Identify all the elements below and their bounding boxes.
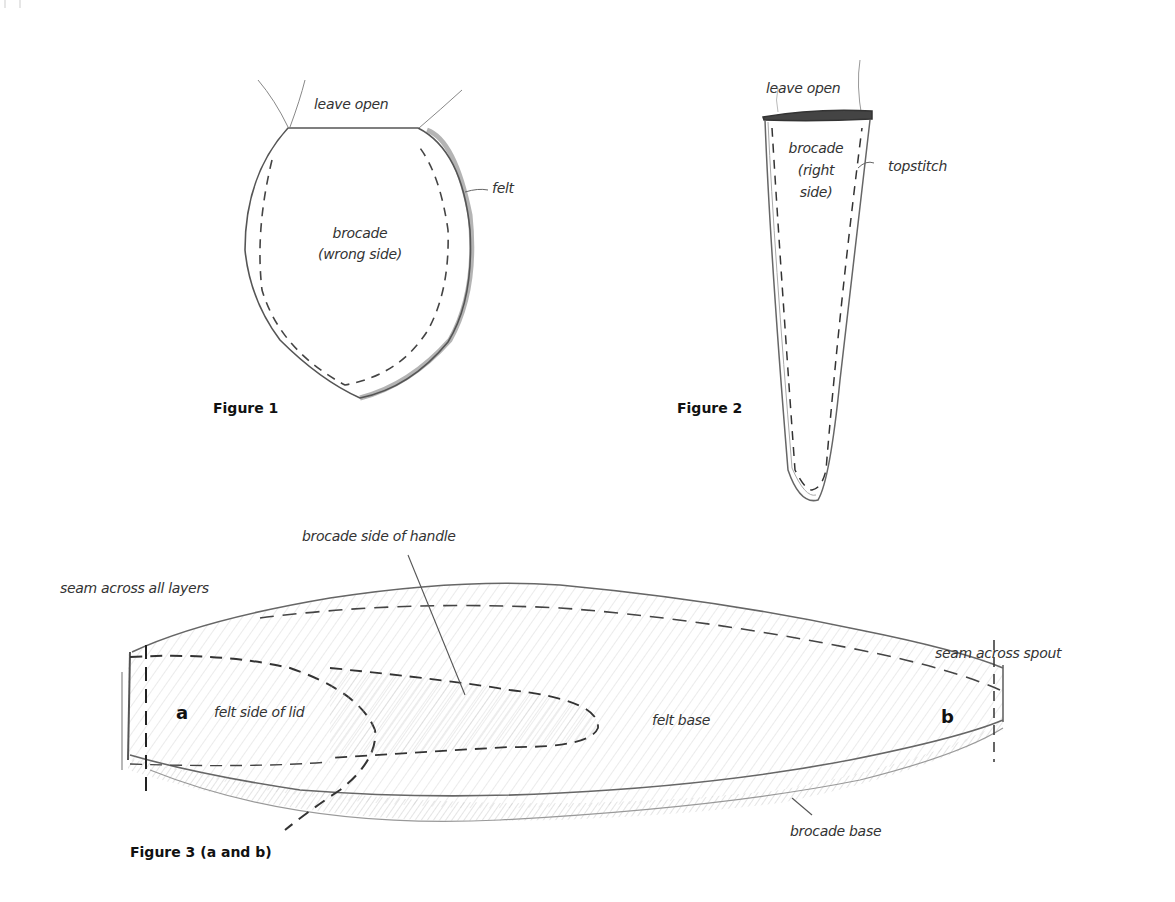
figure1-felt-label: felt [492, 180, 514, 196]
figure3-felt-base-label: felt base [652, 712, 710, 728]
figure1-leave-open-label: leave open [314, 96, 388, 112]
figure1-wrong-side-label: (wrong side) [300, 246, 420, 262]
figure2-handle-shape [763, 60, 874, 501]
figure2-brocade-label: brocade [780, 140, 852, 156]
figure3-brocade-side-of-handle-label: brocade side of handle [302, 528, 456, 544]
figure3-brocade-base-label: brocade base [790, 823, 881, 839]
figure3-felt-side-of-lid-label: felt side of lid [214, 704, 304, 720]
figure3-caption: Figure 3 (a and b) [130, 844, 272, 860]
figure2-leave-open-label: leave open [766, 80, 840, 96]
figure1-brocade-label: brocade [300, 225, 420, 241]
figure2-caption: Figure 2 [677, 400, 742, 416]
figure2-side-label: side) [780, 184, 852, 200]
figure3-seam-across-spout-label: seam across spout [935, 645, 1061, 661]
figure3-seam-across-all-layers-label: seam across all layers [60, 580, 209, 596]
figure2-right-label: (right [780, 162, 852, 178]
sewing-diagram-artwork [0, 0, 1175, 902]
figure3-marker-b: b [941, 706, 954, 727]
figure2-topstitch-label: topstitch [888, 158, 947, 174]
figure3-marker-a: a [176, 702, 188, 723]
figure3-teapot-cozy-shape [122, 555, 1003, 830]
figure1-caption: Figure 1 [213, 400, 278, 416]
